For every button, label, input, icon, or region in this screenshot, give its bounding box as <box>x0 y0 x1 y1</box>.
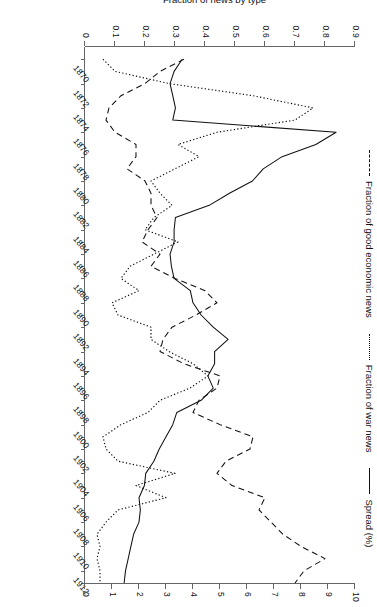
rotated-figure-stage: Fraction of good economic news Fraction … <box>0 0 377 607</box>
chart-plot-area <box>0 0 377 607</box>
chart-figure: Fraction of good economic news Fraction … <box>0 0 377 607</box>
series-line-war-news <box>97 59 313 583</box>
series-line-spread <box>124 59 336 583</box>
